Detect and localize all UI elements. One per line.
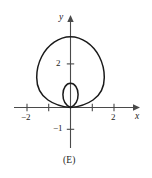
y-axis-label: y (59, 13, 63, 23)
y-tick-label-neg1: −1 (53, 124, 62, 133)
x-axis-arrowhead (133, 104, 140, 110)
panel-label: (E) (63, 156, 76, 166)
x-tick-label-pos2: 2 (111, 113, 115, 122)
polar-curve-figure: −2 2 2 −1 x y (E) (0, 0, 152, 178)
x-tick-label-neg2: −2 (21, 113, 30, 122)
x-axis-label: x (135, 112, 139, 122)
y-axis-arrowhead (67, 15, 73, 22)
plot-canvas (0, 0, 152, 178)
y-tick-label-pos2: 2 (56, 59, 60, 68)
axis-group (14, 15, 140, 148)
